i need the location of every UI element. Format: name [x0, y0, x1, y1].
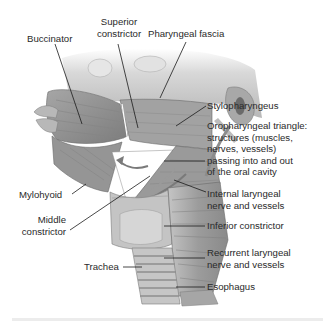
- label-internal-laryngeal-line2: nerve and vessels: [207, 200, 284, 212]
- label-internal-laryngeal: Internal laryngeal nerve and vessels: [207, 188, 284, 211]
- mylohyoid-muscle: [52, 136, 122, 192]
- label-esophagus: Esophagus: [207, 281, 255, 293]
- larynx: [110, 190, 172, 249]
- superior-constrictor-muscle: [120, 99, 212, 150]
- label-recurrent-laryngeal-line1: Recurrent laryngeal: [207, 247, 291, 259]
- label-oropharyngeal-line1: Oropharyngeal triangle:: [207, 120, 307, 132]
- label-buccinator: Buccinator: [27, 33, 72, 45]
- label-oropharyngeal-line3: nerves, vessels): [207, 143, 307, 155]
- label-pharyngeal-fascia: Pharyngeal fascia: [148, 28, 224, 40]
- anatomy-figure: Buccinator Superior constrictor Pharynge…: [0, 0, 328, 321]
- trachea: [132, 248, 180, 304]
- label-mylohyoid: Mylohyoid: [19, 189, 62, 201]
- label-oropharyngeal-line5: of the oral cavity: [207, 166, 307, 178]
- label-oropharyngeal-line2: structures (muscles,: [207, 132, 307, 144]
- label-middle-constrictor: Middle constrictor: [10, 214, 66, 237]
- label-recurrent-laryngeal: Recurrent laryngeal nerve and vessels: [207, 247, 291, 270]
- label-superior-constrictor: Superior constrictor: [90, 16, 148, 39]
- label-oropharyngeal-line4: passing into and out: [207, 155, 307, 167]
- label-inferior-constrictor: Inferior constrictor: [207, 220, 284, 232]
- label-stylopharyngeus: Stylopharyngeus: [207, 100, 278, 112]
- label-internal-laryngeal-line1: Internal laryngeal: [207, 188, 284, 200]
- label-superior-constrictor-line2: constrictor: [90, 28, 148, 40]
- label-oropharyngeal-triangle: Oropharyngeal triangle: structures (musc…: [207, 120, 307, 178]
- label-middle-constrictor-line1: Middle: [10, 214, 66, 226]
- label-superior-constrictor-line1: Superior: [90, 16, 148, 28]
- label-trachea: Trachea: [84, 261, 119, 273]
- leader-mylohyoid: [72, 184, 86, 194]
- label-recurrent-laryngeal-line2: nerve and vessels: [207, 259, 291, 271]
- label-middle-constrictor-line2: constrictor: [10, 226, 66, 238]
